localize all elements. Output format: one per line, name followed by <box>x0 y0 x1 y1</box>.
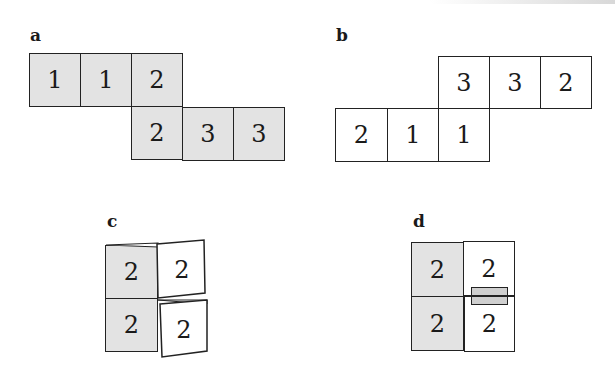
cell-d-3: 2 <box>411 296 464 351</box>
panel-c-tilted-cells <box>0 0 615 380</box>
cell-d-1: 2 <box>411 242 464 297</box>
cell-c-2: 2 <box>160 248 204 292</box>
overlap-line <box>463 295 515 297</box>
cell-c-4: 2 <box>162 306 206 354</box>
panel-label-d: d <box>413 213 425 230</box>
